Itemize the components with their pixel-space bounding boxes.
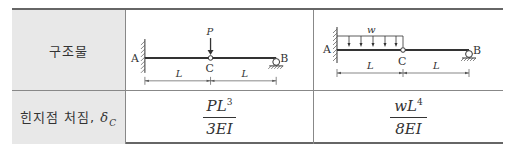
numerator-exponent: 3 [227, 97, 233, 107]
span-label-1: L [366, 60, 374, 71]
numerator: PL3 [203, 97, 237, 117]
distributed-load-icon [337, 36, 403, 47]
span-label-2: L [240, 68, 248, 79]
delta-char: δ [100, 110, 109, 125]
label-a: A [322, 43, 332, 56]
label-a: A [130, 52, 139, 65]
row-header-structure: 구조물 [12, 10, 126, 90]
fixed-support-icon [333, 27, 337, 63]
denominator: 3EI [206, 118, 232, 138]
deflection-table: 구조물 A C [12, 8, 503, 144]
label-c: C [398, 55, 406, 68]
label-b: B [473, 44, 481, 57]
delta-subscript: C [109, 118, 117, 128]
deflection-formula-2: wL4 8EI [390, 97, 427, 138]
hinge-icon [208, 56, 213, 61]
case-2-diagram-cell: A w C [314, 10, 503, 90]
label-c: C [206, 62, 214, 75]
point-load-arrow-icon [208, 38, 214, 55]
case-1-diagram-cell: A C P [126, 10, 314, 90]
deflection-label: 힌지점 처짐, δC [20, 107, 117, 128]
label-b: B [280, 52, 288, 65]
hinge-icon [401, 48, 406, 53]
span-label-1: L [175, 68, 183, 79]
delta-symbol: δC [100, 110, 117, 125]
dimension-lines [337, 69, 469, 77]
case-1-deflection-cell: PL3 3EI [126, 91, 314, 144]
beam-diagram-point-load: A C P [126, 11, 313, 89]
row-header-deflection: 힌지점 처짐, δC [12, 91, 126, 144]
label-w: w [367, 24, 376, 35]
span-label-2: L [432, 60, 440, 71]
dimension-lines [145, 77, 276, 85]
label-p: P [206, 26, 214, 37]
structure-label: 구조물 [49, 41, 88, 60]
deflection-label-text: 힌지점 처짐, [20, 110, 100, 125]
fixed-support-icon [141, 39, 145, 73]
denominator: 8EI [395, 118, 421, 138]
numerator-text: PL [207, 97, 227, 115]
deflection-row: 힌지점 처짐, δC PL3 3EI wL4 8EI [12, 91, 503, 144]
beam-diagram-distributed-load: A w C [314, 11, 503, 89]
numerator-text: wL [394, 97, 417, 115]
numerator-exponent: 4 [417, 97, 423, 107]
case-2-deflection-cell: wL4 8EI [314, 91, 503, 144]
numerator: wL4 [390, 97, 427, 117]
structure-row: 구조물 A C [12, 10, 503, 91]
deflection-formula-1: PL3 3EI [203, 97, 237, 138]
